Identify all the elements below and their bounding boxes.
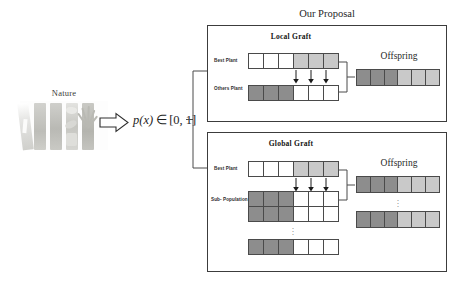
gene-cell bbox=[357, 212, 371, 227]
gene-cell bbox=[294, 192, 309, 206]
gene-cell bbox=[264, 162, 279, 176]
gene-cell bbox=[249, 240, 264, 254]
gene-cell bbox=[398, 177, 412, 192]
gene-cell bbox=[385, 70, 399, 85]
gene-cell bbox=[357, 177, 371, 192]
sub-population-strip bbox=[248, 191, 339, 207]
gene-cell bbox=[264, 54, 279, 68]
gene-cell bbox=[279, 207, 294, 221]
gene-cell bbox=[426, 177, 439, 192]
sub-population-strip bbox=[248, 206, 339, 222]
local-graft-title: Local Graft bbox=[172, 32, 410, 41]
sub-population-strip bbox=[248, 239, 339, 255]
gene-cell bbox=[324, 162, 338, 176]
others-plant-strip bbox=[248, 85, 339, 101]
merge-bracket-global bbox=[339, 169, 356, 201]
gene-cell bbox=[264, 86, 279, 100]
offspring-strip-global bbox=[356, 211, 440, 228]
offspring-title-global: Offspring bbox=[356, 158, 442, 168]
others-plant-label: Others Plant bbox=[214, 86, 243, 92]
merge-bracket bbox=[339, 61, 356, 93]
right-block-arrow-icon bbox=[99, 112, 129, 133]
gene-cell bbox=[249, 54, 264, 68]
gene-cell bbox=[385, 212, 399, 227]
gene-cell bbox=[249, 162, 264, 176]
sub-population-label: Sub- Population bbox=[211, 197, 248, 203]
gene-cell bbox=[324, 54, 338, 68]
gene-cell bbox=[249, 192, 264, 206]
strip-highlight bbox=[22, 119, 27, 133]
plant-strip-1 bbox=[17, 103, 34, 151]
gene-cell bbox=[279, 240, 294, 254]
gene-cell bbox=[398, 212, 412, 227]
gene-cell bbox=[294, 162, 309, 176]
best-plant-strip bbox=[248, 53, 339, 69]
best-plant-label-global: Best Plant bbox=[214, 166, 237, 172]
plant-detail-3 bbox=[66, 133, 77, 146]
gene-cell bbox=[279, 192, 294, 206]
local-graft-panel: Local Graft Best Plant bbox=[207, 25, 447, 122]
gene-cell bbox=[279, 86, 294, 100]
probability-relation: ∈ bbox=[156, 113, 167, 127]
page-title: Our Proposal bbox=[207, 8, 447, 19]
gene-cell bbox=[357, 70, 371, 85]
plant-stems-photo bbox=[20, 101, 108, 150]
gene-cell bbox=[309, 162, 324, 176]
gene-cell bbox=[264, 207, 279, 221]
offspring-ellipsis: ... bbox=[391, 197, 405, 207]
gene-cell bbox=[309, 54, 324, 68]
gene-cell bbox=[309, 192, 324, 206]
gene-cell bbox=[294, 207, 309, 221]
sub-population-label-line1: Sub- bbox=[211, 197, 222, 202]
gene-cell bbox=[264, 192, 279, 206]
gene-cell bbox=[385, 177, 399, 192]
others-plant-label-line1: Others bbox=[214, 86, 229, 91]
sub-population-ellipsis: ... bbox=[286, 225, 300, 235]
offspring-title: Offspring bbox=[356, 51, 442, 61]
gene-cell bbox=[371, 70, 385, 85]
graft-arrows bbox=[293, 70, 341, 85]
best-plant-strip-global bbox=[248, 161, 339, 177]
global-graft-title: Global Graft bbox=[172, 139, 410, 148]
gene-cell bbox=[294, 54, 309, 68]
gene-cell bbox=[294, 86, 309, 100]
gene-cell bbox=[371, 212, 385, 227]
gene-cell bbox=[309, 86, 324, 100]
gene-cell bbox=[398, 70, 412, 85]
gene-cell bbox=[309, 240, 324, 254]
best-plant-label: Best Plant bbox=[214, 58, 237, 64]
offspring-strip bbox=[356, 69, 440, 86]
gene-cell bbox=[249, 207, 264, 221]
others-plant-label-line2: Plant bbox=[231, 86, 243, 91]
gene-cell bbox=[426, 70, 439, 85]
global-graft-panel: Global Graft Best Plant bbox=[207, 132, 447, 272]
gene-cell bbox=[279, 54, 294, 68]
figure-canvas: Nature p(x) ∈ [0, bbox=[0, 0, 454, 281]
gene-cell bbox=[324, 192, 338, 206]
gene-cell bbox=[264, 240, 279, 254]
gene-cell bbox=[412, 212, 426, 227]
plant-strip-3 bbox=[50, 103, 62, 150]
gene-cell bbox=[309, 207, 324, 221]
plant-strip-2 bbox=[34, 103, 46, 150]
gene-cell bbox=[249, 86, 264, 100]
probability-function: p(x) bbox=[133, 113, 153, 127]
gene-cell bbox=[412, 70, 426, 85]
gene-cell bbox=[279, 162, 294, 176]
gene-cell bbox=[371, 177, 385, 192]
gene-cell bbox=[294, 240, 309, 254]
gene-cell bbox=[324, 207, 338, 221]
gene-cell bbox=[426, 212, 439, 227]
split-bracket bbox=[186, 62, 208, 177]
offspring-strip-global bbox=[356, 176, 440, 193]
gene-cell bbox=[412, 177, 426, 192]
nature-label: Nature bbox=[18, 88, 110, 98]
gene-cell bbox=[324, 86, 338, 100]
gene-cell bbox=[324, 240, 338, 254]
sub-population-label-line2: Population bbox=[223, 197, 248, 202]
nature-block: Nature bbox=[18, 88, 110, 150]
